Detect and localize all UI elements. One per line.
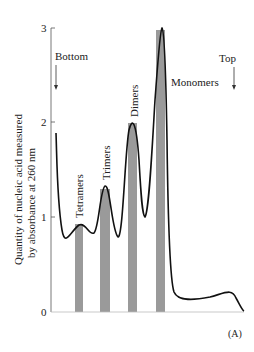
absorbance-curve — [56, 28, 244, 311]
peak-label-monomers: Monomers — [171, 76, 219, 88]
peak-label-tetramers: Tetramers — [73, 174, 85, 218]
bottom-arrow-icon — [54, 65, 58, 90]
peak-label-dimers: Dimers — [128, 85, 140, 117]
y-tick-label-2: 2 — [41, 116, 47, 128]
tetramer-bar — [75, 224, 83, 312]
y-tick-label-3: 3 — [41, 22, 47, 34]
y-tick-label-0: 0 — [41, 306, 47, 318]
y-axis-label-line2: by absorbance at 260 nm — [25, 148, 37, 258]
trimer-bar — [100, 189, 110, 312]
fraction-bars — [75, 30, 165, 312]
y-tick-label-1: 1 — [41, 211, 47, 223]
top-label: Top — [219, 52, 236, 64]
dimer-bar — [128, 123, 137, 312]
panel-label: (A) — [228, 328, 242, 340]
sedimentation-chart: 3 2 1 0 Quantity of nucleic acid measure… — [0, 0, 254, 352]
y-axis-label-line1: Quantity of nucleic acid measured — [12, 114, 24, 265]
top-arrow-icon — [232, 67, 236, 90]
bottom-label: Bottom — [55, 50, 88, 62]
peak-label-trimers: Trimers — [100, 146, 112, 180]
